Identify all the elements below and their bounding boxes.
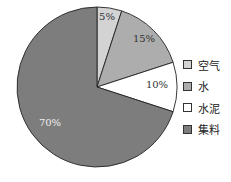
legend-item-cement: 水泥	[183, 97, 220, 119]
legend-label: 水泥	[198, 100, 220, 116]
legend-swatch	[183, 103, 192, 112]
legend-item-aggregate: 集料	[183, 119, 220, 141]
slice-label: 70%	[39, 117, 61, 128]
slice-label: 10%	[146, 79, 168, 90]
legend-item-air: 空气	[183, 54, 220, 76]
legend-label: 空气	[198, 57, 220, 73]
legend-swatch	[183, 60, 192, 69]
legend-swatch	[183, 125, 192, 134]
legend-item-water: 水	[183, 76, 220, 98]
legend-label: 水	[198, 78, 209, 94]
legend: 空气 水 水泥 集料	[183, 54, 220, 140]
legend-label: 集料	[198, 121, 220, 137]
slice-label: 5%	[99, 11, 115, 22]
legend-swatch	[183, 82, 192, 91]
slice-label: 15%	[133, 33, 155, 44]
